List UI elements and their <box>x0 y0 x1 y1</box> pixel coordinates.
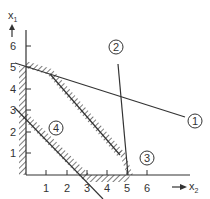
svg-text:1: 1 <box>10 147 16 159</box>
x2-arrow-icon <box>172 184 187 190</box>
x1-axis-label: x1 <box>8 9 18 23</box>
constraint-line-1 <box>15 63 185 117</box>
constraint-label-3: 3 <box>140 151 154 165</box>
svg-text:1: 1 <box>192 115 198 127</box>
svg-text:1: 1 <box>43 182 49 194</box>
constraint-label-4: 4 <box>49 121 63 135</box>
svg-text:3: 3 <box>84 182 90 194</box>
svg-text:3: 3 <box>10 104 16 116</box>
svg-text:4: 4 <box>104 182 110 194</box>
constraint-label-2: 2 <box>109 40 123 54</box>
constraint-label-1: 1 <box>188 114 202 128</box>
svg-text:2: 2 <box>113 41 119 53</box>
svg-text:4: 4 <box>10 83 16 95</box>
hatching <box>19 61 133 182</box>
x2-axis-label: x2 <box>189 180 199 194</box>
svg-text:4: 4 <box>53 122 59 134</box>
svg-text:6: 6 <box>144 182 150 194</box>
lp-diagram: x1 x2 1 2 3 4 5 6 1 2 3 4 5 6 <box>0 0 210 199</box>
constraint-line-3 <box>50 74 120 155</box>
svg-text:6: 6 <box>10 40 16 52</box>
x1-arrow-icon <box>9 24 15 37</box>
svg-text:2: 2 <box>64 182 70 194</box>
svg-text:2: 2 <box>10 126 16 138</box>
svg-text:5: 5 <box>124 182 130 194</box>
svg-text:3: 3 <box>144 152 150 164</box>
